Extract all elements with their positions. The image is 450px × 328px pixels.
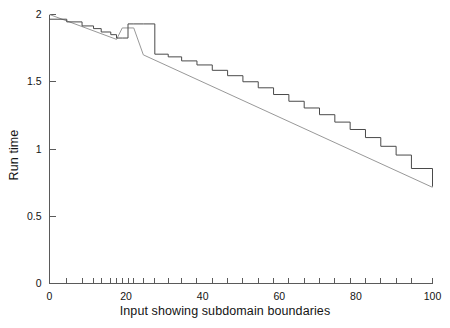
- chart-figure: 020406080100 00.511.52 Input showing sub…: [0, 0, 450, 328]
- y-axis-tick-labels: 00.511.52: [27, 8, 42, 289]
- series-step-function: [50, 19, 433, 186]
- x-axis-tick-labels: 020406080100: [47, 290, 442, 302]
- x-axis-ticks: [50, 278, 433, 284]
- x-axis-title: Input showing subdomain boundaries: [0, 304, 450, 318]
- svg-text:1.5: 1.5: [27, 75, 42, 87]
- chart-plot-area: 020406080100 00.511.52: [0, 0, 450, 328]
- svg-text:0: 0: [47, 290, 53, 302]
- svg-text:0: 0: [36, 277, 42, 289]
- svg-text:1: 1: [36, 143, 42, 155]
- series-smooth-trend-line: [50, 15, 433, 188]
- svg-text:80: 80: [350, 290, 362, 302]
- svg-text:20: 20: [120, 290, 132, 302]
- svg-text:0.5: 0.5: [27, 210, 42, 222]
- svg-text:40: 40: [197, 290, 209, 302]
- svg-text:60: 60: [273, 290, 285, 302]
- svg-text:100: 100: [424, 290, 442, 302]
- y-axis-title: Run time: [7, 115, 21, 195]
- svg-text:2: 2: [36, 8, 42, 20]
- y-axis-ticks: [50, 15, 56, 284]
- axis-lines: [50, 15, 433, 284]
